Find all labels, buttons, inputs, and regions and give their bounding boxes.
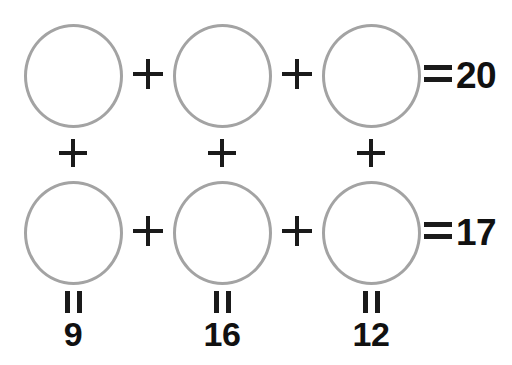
plus-icon-r1-between-c2-c3 xyxy=(282,59,312,89)
equals-icon-col3 xyxy=(363,291,380,313)
circle-r2c3[interactable] xyxy=(322,181,421,285)
plus-icon-r2-between-c2-c3 xyxy=(282,216,312,246)
circle-r2c1[interactable] xyxy=(24,181,123,285)
equals-icon-col1 xyxy=(65,291,82,313)
circle-r2c2[interactable] xyxy=(173,181,272,285)
plus-icon-col2-between-rows xyxy=(208,139,236,167)
equals-icon-row1 xyxy=(424,65,452,83)
row-sum-value-2: 17 xyxy=(456,214,496,251)
row-sum-value-1: 20 xyxy=(456,57,496,94)
plus-icon-r1-between-c1-c2 xyxy=(133,59,163,89)
equals-icon-row2 xyxy=(424,222,452,240)
puzzle-canvas: 20 17 9 16 12 xyxy=(0,0,512,365)
equals-icon-col2 xyxy=(214,291,231,313)
circle-r1c3[interactable] xyxy=(322,24,421,128)
plus-icon-r2-between-c1-c2 xyxy=(133,216,163,246)
plus-icon-col3-between-rows xyxy=(357,139,385,167)
circle-r1c2[interactable] xyxy=(173,24,272,128)
column-sum-value-1: 9 xyxy=(38,317,108,351)
plus-icon-col1-between-rows xyxy=(59,139,87,167)
column-sum-value-3: 12 xyxy=(336,317,406,351)
column-sum-value-2: 16 xyxy=(187,317,257,351)
circle-r1c1[interactable] xyxy=(24,24,123,128)
